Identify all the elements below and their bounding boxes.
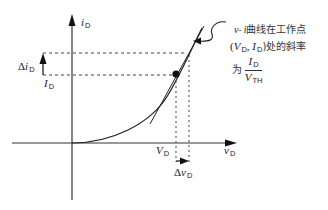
y-axis-sub: D (85, 21, 90, 30)
delta-i-var: i (25, 60, 28, 72)
y-axis-label: iD (81, 17, 90, 30)
slope-denominator: VTH (245, 71, 263, 85)
x-axis-sub: D (230, 149, 235, 158)
numerator-var: I (249, 55, 253, 67)
delta-i-sub: D (29, 65, 34, 74)
vd-var: V (156, 144, 163, 156)
delta-v-label: ΔvD (174, 167, 192, 180)
annotation-text-2: )处的斜率 (262, 41, 306, 52)
delta-i-arrow-icon (40, 53, 47, 64)
delta-i-label: ΔiD (18, 61, 35, 74)
annotation-line-2: (VD, ID)处的斜率 (230, 41, 306, 54)
delta-v-arrow-icon (180, 158, 189, 165)
id-label: ID (44, 78, 54, 91)
delta-v-var: v (181, 166, 186, 178)
annotation-prefix: 为 (232, 64, 242, 75)
denominator-sub: TH (252, 76, 262, 85)
annotation-line-1: v- i曲线在工作点 (234, 24, 306, 35)
annotation-id-var: I (252, 40, 256, 52)
id-var: I (44, 77, 48, 89)
numerator-sub: D (253, 60, 258, 69)
id-sub: D (49, 82, 54, 91)
x-axis-var: v (224, 144, 229, 156)
delta-v-sub: D (187, 171, 192, 180)
vd-label: VD (156, 145, 169, 158)
operating-point (172, 70, 179, 77)
vd-sub: D (164, 149, 169, 158)
annotation-vd-var: V (234, 40, 241, 52)
y-axis-var: i (81, 16, 84, 28)
y-axis-arrow-icon (69, 14, 76, 26)
slope-numerator: ID (245, 56, 263, 71)
annotation-line-3: 为 ID VTH (232, 56, 262, 84)
vi-curve (72, 28, 202, 143)
x-axis-label: vD (224, 145, 235, 158)
slope-fraction: ID VTH (245, 56, 263, 84)
denominator-var: V (245, 71, 252, 83)
annotation-text-1: 曲线在工作点 (246, 24, 306, 35)
